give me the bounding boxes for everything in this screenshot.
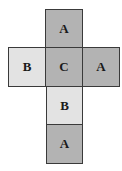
face-below-center: B <box>46 86 83 125</box>
face-label: A <box>96 59 105 75</box>
face-label: A <box>60 136 69 152</box>
face-bottom: A <box>46 124 83 164</box>
face-label: B <box>23 59 32 75</box>
face-label: B <box>60 98 69 114</box>
face-label: A <box>59 21 68 37</box>
face-label: C <box>59 59 68 75</box>
face-center: C <box>45 47 83 87</box>
cube-net-diagram: A B C A B A <box>0 0 122 171</box>
face-right: A <box>82 47 120 87</box>
face-top: A <box>45 9 83 48</box>
face-left: B <box>8 47 46 87</box>
